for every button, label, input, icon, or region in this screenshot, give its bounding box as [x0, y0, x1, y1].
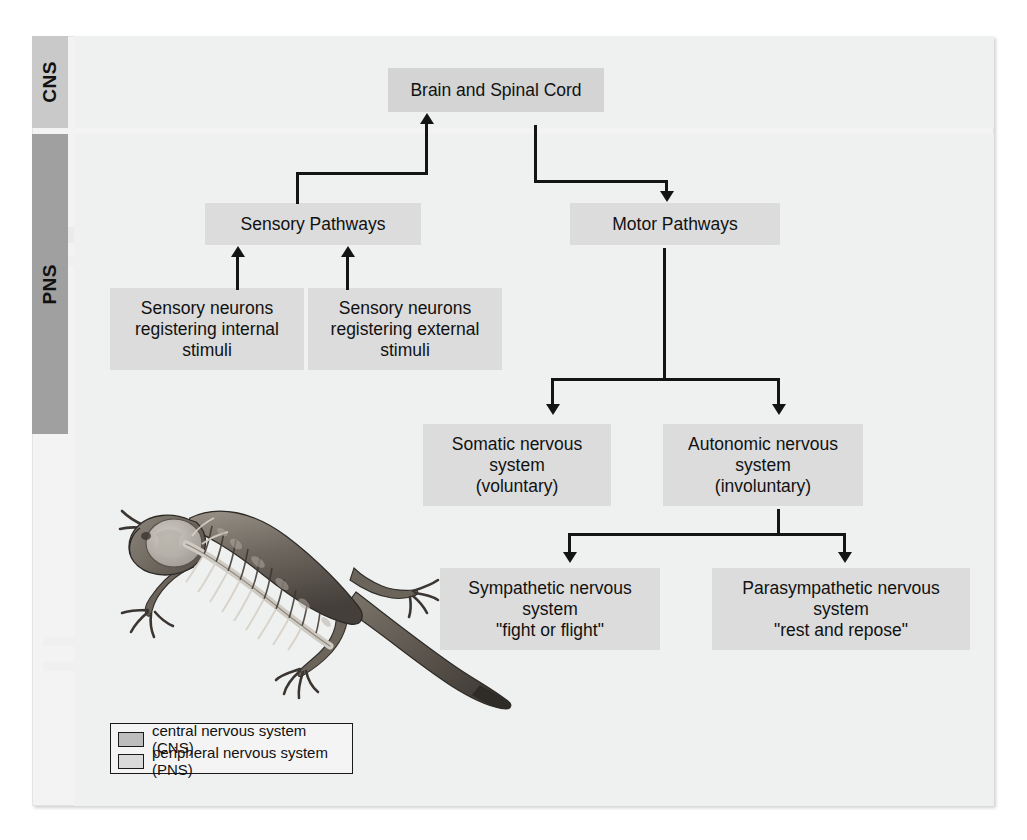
node-line: Autonomic nervous	[688, 434, 838, 455]
arrowhead-up	[231, 246, 245, 257]
legend-swatch-cns-icon	[118, 732, 144, 747]
node-line: stimuli	[182, 340, 232, 361]
node-line: system	[735, 455, 790, 476]
node-line: (voluntary)	[476, 476, 559, 497]
node-line: Sensory neurons	[141, 298, 273, 319]
node-brain-and-spinal-cord[interactable]: Brain and Spinal Cord	[388, 68, 604, 112]
node-line: system	[813, 599, 868, 620]
connector-sensory-crossbar	[296, 172, 428, 175]
connector-to-somatic	[551, 378, 554, 406]
node-sensory-neurons-internal[interactable]: Sensory neurons registering internal sti…	[110, 288, 304, 370]
node-line: system	[522, 599, 577, 620]
connector-internal-to-sensory	[236, 256, 239, 290]
figure-page: CNS PNS	[0, 0, 1027, 840]
region-label-pns: PNS	[32, 134, 68, 434]
node-line: Somatic nervous	[452, 434, 582, 455]
node-parasympathetic-nervous-system[interactable]: Parasympathetic nervous system "rest and…	[712, 568, 970, 650]
connector-autonomic-stem	[777, 509, 780, 536]
node-line: Sensory Pathways	[241, 214, 386, 235]
arrowhead-up	[341, 246, 355, 257]
connector-sensory-riser	[296, 172, 299, 204]
node-motor-pathways[interactable]: Motor Pathways	[570, 203, 780, 245]
node-sensory-neurons-external[interactable]: Sensory neurons registering external sti…	[308, 288, 502, 370]
node-line: Sympathetic nervous	[468, 578, 631, 599]
node-somatic-nervous-system[interactable]: Somatic nervous system (voluntary)	[423, 424, 611, 506]
legend-swatch-pns-icon	[118, 754, 144, 769]
arrowhead-down	[546, 404, 560, 415]
legend: central nervous system (CNS) peripheral …	[110, 723, 353, 774]
node-line: registering internal	[135, 319, 279, 340]
region-label-pns-text: PNS	[39, 264, 61, 305]
node-line: "rest and repose"	[774, 620, 908, 641]
connector-to-autonomic	[777, 378, 780, 406]
node-line: Brain and Spinal Cord	[410, 80, 581, 101]
arrowhead-down	[772, 404, 786, 415]
connector-sensory-to-brain	[425, 124, 428, 174]
node-autonomic-nervous-system[interactable]: Autonomic nervous system (involuntary)	[663, 424, 863, 506]
arrowhead-down	[563, 552, 577, 563]
connector-brain-crossbar	[534, 180, 668, 183]
arrowhead-up	[420, 113, 434, 124]
node-line: stimuli	[380, 340, 430, 361]
node-line: Parasympathetic nervous	[742, 578, 939, 599]
legend-label-pns: peripheral nervous system (PNS)	[152, 744, 346, 778]
connector-autonomic-crossbar	[568, 533, 846, 536]
legend-item-pns: peripheral nervous system (PNS)	[118, 750, 346, 772]
arrowhead-down	[838, 552, 852, 563]
region-label-cns-text: CNS	[39, 61, 61, 103]
node-line: Motor Pathways	[612, 214, 737, 235]
connector-motor-stem	[663, 248, 666, 380]
node-sympathetic-nervous-system[interactable]: Sympathetic nervous system "fight or fli…	[440, 568, 660, 650]
node-line: Sensory neurons	[339, 298, 471, 319]
node-line: "fight or flight"	[496, 620, 604, 641]
node-line: registering external	[331, 319, 480, 340]
node-sensory-pathways[interactable]: Sensory Pathways	[205, 203, 421, 245]
arrowhead-down	[660, 191, 674, 202]
connector-brain-drop	[534, 125, 537, 183]
connector-external-to-sensory	[346, 256, 349, 290]
node-line: (involuntary)	[715, 476, 811, 497]
connector-motor-crossbar	[551, 378, 780, 381]
node-line: system	[489, 455, 544, 476]
region-label-cns: CNS	[32, 36, 68, 128]
